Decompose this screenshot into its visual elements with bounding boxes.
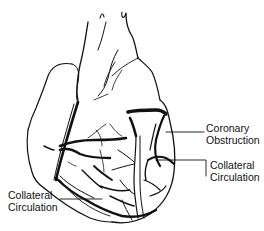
heart-diagram: Coronary Obstruction Collateral Circulat… [0, 0, 264, 231]
label-coronary-obstruction: Coronary Obstruction [206, 122, 260, 146]
label-collateral-circulation-right: Collateral Circulation [210, 159, 260, 183]
label-line: Obstruction [206, 134, 260, 146]
label-collateral-circulation-left: Collateral Circulation [8, 189, 58, 213]
label-line: Circulation [210, 171, 260, 183]
label-line: Coronary [206, 122, 260, 134]
label-line: Circulation [8, 201, 58, 213]
label-line: Collateral [210, 159, 260, 171]
label-line: Collateral [8, 189, 58, 201]
